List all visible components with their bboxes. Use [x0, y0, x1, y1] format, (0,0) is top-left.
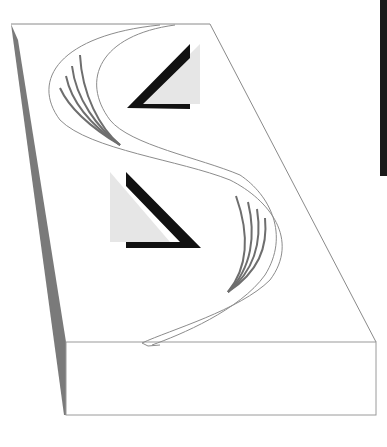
- upper-strands: [60, 55, 120, 145]
- slab-side-face: [11, 24, 66, 415]
- slab-front-face: [66, 342, 376, 415]
- edge-bar: [380, 0, 387, 176]
- lower-triangle-fill: [110, 172, 170, 242]
- abstract-slab-illustration: [0, 0, 387, 447]
- lower-strands: [228, 196, 266, 292]
